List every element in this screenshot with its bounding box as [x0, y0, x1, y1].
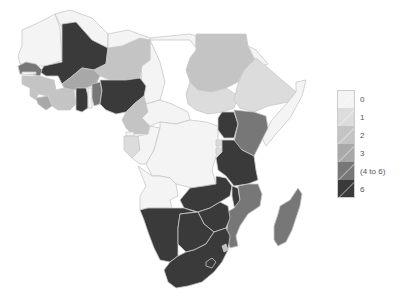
- country-togo[interactable]: [88, 88, 92, 108]
- legend-label: (4 to 6): [360, 167, 385, 176]
- country-rwanda[interactable]: [216, 140, 222, 146]
- legend-label: 2: [360, 131, 364, 140]
- legend-swatch: [337, 90, 355, 108]
- legend-item-1: 1: [337, 108, 385, 126]
- legend-label: 1: [360, 113, 364, 122]
- legend-label: 6: [360, 185, 364, 194]
- legend-swatch: [337, 162, 355, 180]
- legend-item-0: 0: [337, 90, 385, 108]
- country-madagascar[interactable]: [274, 188, 302, 246]
- legend-item-6: 6: [337, 180, 385, 198]
- country-equatorial-guinea[interactable]: [126, 132, 134, 136]
- country-uganda[interactable]: [218, 112, 238, 138]
- country-egypt[interactable]: [150, 34, 196, 48]
- legend-label: 0: [360, 95, 364, 104]
- legend-item-3: 3: [337, 144, 385, 162]
- legend-item-4-to-6: (4 to 6): [337, 162, 385, 180]
- legend-swatch: [337, 108, 355, 126]
- africa-map: [0, 0, 330, 297]
- legend-swatch: [337, 126, 355, 144]
- legend-label: 3: [360, 149, 364, 158]
- country-mauritania[interactable]: [18, 14, 62, 66]
- country-gambia[interactable]: [22, 72, 36, 75]
- legend-item-2: 2: [337, 126, 385, 144]
- country-ghana[interactable]: [76, 88, 88, 112]
- map-legend: 0 1 2 3 (4 to 6) 6: [337, 90, 385, 198]
- legend-swatch: [337, 180, 355, 198]
- legend-swatch: [337, 144, 355, 162]
